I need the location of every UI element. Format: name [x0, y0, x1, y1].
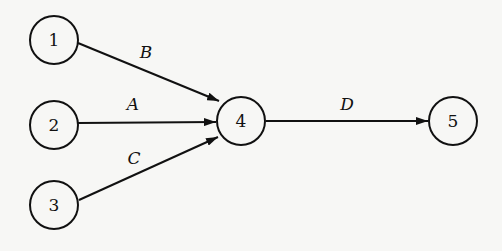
edge-3-4: C: [79, 137, 218, 200]
node-2: 2: [30, 101, 78, 149]
edge-2-4: A: [78, 94, 216, 123]
node-1: 1: [30, 16, 78, 64]
edge-label-a: A: [125, 94, 139, 114]
svg-text:2: 2: [49, 115, 60, 135]
edge-label-d: D: [339, 94, 354, 114]
edge-label-c: C: [127, 148, 140, 168]
svg-text:5: 5: [448, 111, 459, 131]
svg-text:4: 4: [236, 111, 247, 131]
svg-text:1: 1: [49, 30, 60, 50]
edge-label-b: B: [139, 42, 153, 62]
svg-text:3: 3: [49, 195, 60, 215]
node-3: 3: [30, 181, 78, 229]
activity-network-diagram: B A C D 1 2 3 4 5: [0, 0, 502, 251]
edge-4-5: D: [266, 94, 428, 121]
node-5: 5: [429, 97, 477, 145]
edge-1-4: B: [78, 42, 219, 101]
node-4: 4: [217, 97, 265, 145]
